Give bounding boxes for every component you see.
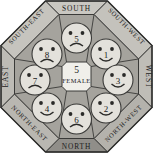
sector-face-south: 5	[62, 23, 92, 53]
face-eye-right-north-west	[110, 101, 114, 105]
face-eye-right-north-east	[51, 101, 55, 105]
label-east: EAST	[1, 65, 10, 87]
face-number-west: 3	[116, 76, 121, 86]
sector-face-west: 3	[103, 65, 133, 95]
face-eye-left-north-east	[39, 101, 43, 105]
face-number-south-west: 1	[104, 50, 109, 60]
face-eye-left-south	[69, 31, 73, 35]
center-sex-label: FEMALE	[62, 77, 91, 84]
face-number-north: 6	[74, 115, 79, 125]
face-number-north-east: 4	[45, 104, 50, 114]
sector-face-north-west: 2	[91, 93, 121, 123]
face-eye-right-south-east	[51, 47, 55, 51]
sector-face-east: 7	[20, 65, 50, 95]
face-eye-left-south-west	[98, 47, 102, 51]
face-eye-right-east	[39, 73, 43, 77]
sector-face-north-east: 4	[32, 93, 62, 123]
face-eye-left-north-west	[98, 101, 102, 105]
label-south: SOUTH	[62, 4, 91, 13]
face-eye-right-south	[81, 31, 85, 35]
face-number-east: 7	[33, 76, 38, 86]
sector-face-south-west: 1	[91, 39, 121, 69]
face-number-south: 5	[74, 34, 79, 44]
face-eye-left-south-east	[39, 47, 43, 51]
label-north: NORTH	[62, 142, 92, 151]
sector-face-north: 6	[62, 104, 92, 134]
sector-face-south-east: 8	[32, 39, 62, 69]
face-number-north-west: 2	[104, 104, 109, 114]
face-number-south-east: 8	[45, 50, 50, 60]
face-eye-right-south-west	[110, 47, 114, 51]
label-west: WEST	[144, 65, 153, 89]
face-eye-left-north	[69, 112, 73, 116]
face-eye-right-north	[81, 112, 85, 116]
face-eye-right-west	[122, 73, 126, 77]
bagua-chart: 5 FEMALE 5 1 3	[0, 0, 153, 153]
center-number: 5	[74, 65, 79, 75]
face-eye-left-east	[27, 73, 31, 77]
face-eye-left-west	[110, 73, 114, 77]
bagua-octagon-svg: 5 FEMALE 5 1 3	[0, 0, 153, 153]
